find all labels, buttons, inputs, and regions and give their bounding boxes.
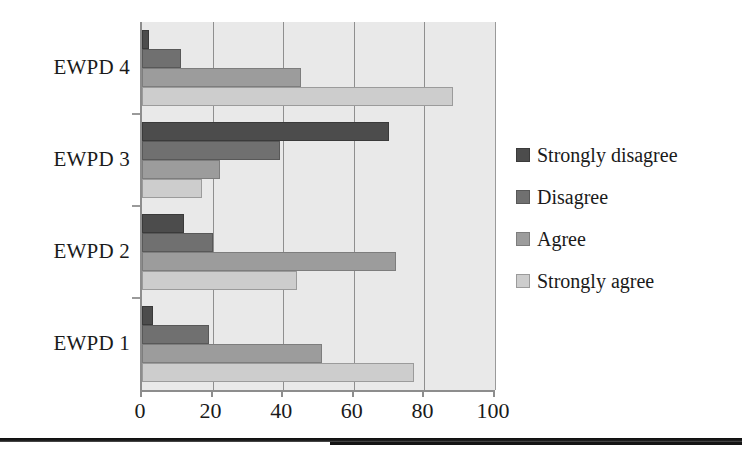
legend-swatch-icon bbox=[516, 148, 530, 162]
bar bbox=[142, 252, 396, 271]
legend-swatch-icon bbox=[516, 274, 530, 288]
y-axis-label-3: EWPD 1 bbox=[0, 331, 130, 356]
bar bbox=[142, 122, 389, 141]
y-axis-label-2: EWPD 2 bbox=[0, 239, 130, 264]
bar bbox=[142, 271, 297, 290]
bar bbox=[142, 87, 453, 106]
legend-item-disagree: Disagree bbox=[516, 178, 731, 216]
bar-chart: EWPD 4 EWPD 3 EWPD 2 EWPD 1 020406080100 bbox=[0, 0, 510, 430]
y-axis-label-1: EWPD 3 bbox=[0, 147, 130, 172]
legend-swatch-icon bbox=[516, 190, 530, 204]
legend-label: Strongly agree bbox=[537, 271, 654, 291]
bar bbox=[142, 141, 280, 160]
chart-page: EWPD 4 EWPD 3 EWPD 2 EWPD 1 020406080100… bbox=[0, 0, 742, 452]
gridline bbox=[354, 22, 355, 390]
bar bbox=[142, 306, 153, 325]
x-axis-tick-label: 60 bbox=[341, 398, 363, 424]
bar bbox=[142, 30, 149, 49]
x-axis-tick bbox=[140, 390, 142, 397]
bar bbox=[142, 344, 322, 363]
x-axis-tick bbox=[493, 390, 495, 397]
x-axis-tick-label: 100 bbox=[477, 398, 510, 424]
legend-item-strongly-agree: Strongly agree bbox=[516, 262, 731, 300]
legend-label: Disagree bbox=[537, 187, 608, 207]
bar bbox=[142, 179, 202, 198]
x-axis-tick-label: 40 bbox=[270, 398, 292, 424]
y-axis-label-0: EWPD 4 bbox=[0, 55, 130, 80]
bar bbox=[142, 68, 301, 87]
x-axis-tick bbox=[352, 390, 354, 397]
x-axis-tick bbox=[211, 390, 213, 397]
x-axis-tick-label: 80 bbox=[411, 398, 433, 424]
bar bbox=[142, 363, 414, 382]
plot-inner bbox=[142, 22, 495, 390]
chart-legend: Strongly disagree Disagree Agree Strongl… bbox=[516, 136, 731, 304]
gridline bbox=[424, 22, 425, 390]
legend-label: Strongly disagree bbox=[537, 145, 678, 165]
plot-area bbox=[140, 22, 495, 390]
legend-swatch-icon bbox=[516, 232, 530, 246]
y-axis-labels: EWPD 4 EWPD 3 EWPD 2 EWPD 1 bbox=[0, 22, 138, 390]
legend-item-agree: Agree bbox=[516, 220, 731, 258]
x-axis-tick-label: 20 bbox=[200, 398, 222, 424]
bar bbox=[142, 214, 184, 233]
x-axis-tick bbox=[422, 390, 424, 397]
legend-item-strongly-disagree: Strongly disagree bbox=[516, 136, 731, 174]
x-axis-line bbox=[140, 390, 495, 392]
bar bbox=[142, 233, 213, 252]
bar bbox=[142, 160, 220, 179]
bar bbox=[142, 325, 209, 344]
x-axis-tick bbox=[281, 390, 283, 397]
page-divider-rule-shadow bbox=[330, 442, 742, 445]
x-axis-tick-label: 0 bbox=[135, 398, 146, 424]
gridline bbox=[495, 22, 496, 390]
bar bbox=[142, 49, 181, 68]
legend-label: Agree bbox=[537, 229, 586, 249]
